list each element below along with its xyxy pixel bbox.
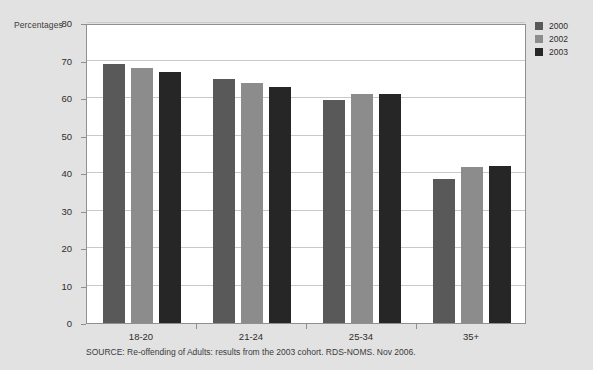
bar bbox=[379, 94, 401, 323]
y-axis-tick-label: 20 bbox=[46, 243, 72, 254]
bar bbox=[159, 72, 181, 323]
y-axis-tick-label: 70 bbox=[46, 56, 72, 67]
bar-group bbox=[213, 25, 291, 323]
bar bbox=[489, 166, 511, 324]
legend-label: 2002 bbox=[549, 35, 568, 43]
y-axis-tick-label: 0 bbox=[46, 318, 72, 329]
legend-label: 2003 bbox=[549, 48, 568, 56]
bar bbox=[103, 64, 125, 323]
x-axis-category-label: 21-24 bbox=[196, 331, 306, 342]
y-axis-tick-mark bbox=[81, 324, 86, 325]
bar bbox=[213, 79, 235, 323]
bar-chart-figure: Percentages 01020304050607080 18-2021-24… bbox=[0, 0, 593, 370]
bar-group bbox=[103, 25, 181, 323]
bar bbox=[269, 87, 291, 323]
y-axis-tick-label: 60 bbox=[46, 93, 72, 104]
plot-area bbox=[86, 24, 526, 324]
bar bbox=[351, 94, 373, 323]
bar bbox=[323, 100, 345, 323]
bar bbox=[131, 68, 153, 323]
x-axis-tick-mark bbox=[416, 324, 417, 329]
legend-item[interactable]: 2003 bbox=[535, 48, 568, 56]
bar-group bbox=[433, 25, 511, 323]
y-axis-tick-label: 50 bbox=[46, 131, 72, 142]
gridline bbox=[87, 22, 525, 23]
legend-swatch-icon bbox=[535, 35, 543, 43]
y-axis-tick-label: 30 bbox=[46, 206, 72, 217]
legend: 200020022003 bbox=[535, 22, 568, 56]
legend-item[interactable]: 2002 bbox=[535, 35, 568, 43]
legend-swatch-icon bbox=[535, 48, 543, 56]
x-axis-tick-mark bbox=[196, 324, 197, 329]
legend-label: 2000 bbox=[549, 22, 568, 30]
y-axis-tick-label: 10 bbox=[46, 281, 72, 292]
x-axis-category-label: 25-34 bbox=[306, 331, 416, 342]
y-axis-tick-label: 80 bbox=[46, 18, 72, 29]
source-note: SOURCE: Re-offending of Adults: results … bbox=[86, 347, 416, 357]
legend-item[interactable]: 2000 bbox=[535, 22, 568, 30]
bar bbox=[433, 179, 455, 323]
y-axis-tick-label: 40 bbox=[46, 168, 72, 179]
bar-group bbox=[323, 25, 401, 323]
x-axis-tick-mark bbox=[306, 324, 307, 329]
x-axis-category-label: 18-20 bbox=[86, 331, 196, 342]
x-axis-category-label: 35+ bbox=[416, 331, 526, 342]
bar bbox=[461, 167, 483, 323]
legend-swatch-icon bbox=[535, 22, 543, 30]
bar bbox=[241, 83, 263, 323]
